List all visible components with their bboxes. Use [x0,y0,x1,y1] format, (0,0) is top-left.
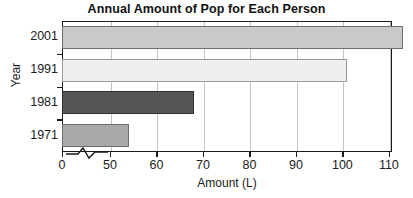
bar-1991 [62,59,347,82]
x-axis-title: Amount (L) [62,176,392,190]
x-axis-tick-label: 80 [229,158,269,172]
y-axis-tick-mark [57,119,62,120]
x-axis-tick-mark [389,152,390,157]
y-axis-tick-mark [57,54,62,55]
x-axis-tick-mark [296,152,297,157]
axis-break-zigzag-icon [66,146,108,160]
chart-title: Annual Amount of Pop for Each Person [0,2,413,16]
bar-1971 [62,124,129,147]
x-axis-tick-mark [62,152,63,157]
x-axis-tick-label: 60 [136,158,176,172]
bar-chart: Annual Amount of Pop for Each Person Yea… [0,0,413,198]
x-axis-tick-label: 100 [322,158,362,172]
y-axis-tick-label: 2001 [12,29,58,43]
x-axis-tick-label: 50 [90,158,130,172]
x-axis-tick-mark [110,152,111,157]
x-axis-tick-label: 110 [369,158,409,172]
bar-2001 [62,26,403,49]
x-axis-tick-mark [203,152,204,157]
y-axis-tick-labels: 2001199119811971 [8,21,58,152]
x-axis-tick-label: 0 [42,158,82,172]
x-axis-tick-label: 90 [276,158,316,172]
x-axis-tick-mark [342,152,343,157]
x-axis-tick-mark [156,152,157,157]
x-axis-tick-mark [249,152,250,157]
y-axis-tick-label: 1981 [12,95,58,109]
bar-1981 [62,91,194,114]
x-axis-tick-label: 70 [183,158,223,172]
y-axis-tick-mark [57,87,62,88]
y-axis-tick-label: 1991 [12,62,58,76]
bars-layer [62,21,392,152]
y-axis-tick-label: 1971 [12,128,58,142]
